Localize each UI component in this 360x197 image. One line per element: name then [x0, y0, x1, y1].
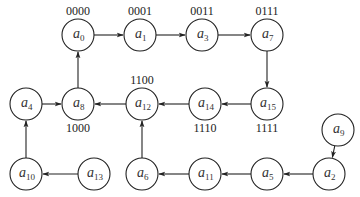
binary-code-label: 1111	[256, 121, 279, 135]
edge-a9-to-a2	[332, 146, 334, 158]
node-a11: a11	[189, 158, 221, 190]
node-a3: a30011	[186, 4, 218, 51]
node-a6: a6	[126, 158, 158, 190]
node-a10: a10	[10, 158, 42, 190]
node-a7: a70111	[251, 4, 283, 51]
node-a14: a141110	[189, 88, 221, 135]
node-a1: a10001	[124, 4, 156, 51]
state-transition-diagram: a00000a10001a30011a70111a151111a141110a1…	[0, 0, 360, 197]
node-a9: a9	[322, 114, 354, 146]
nodes-layer: a00000a10001a30011a70111a151111a141110a1…	[10, 4, 354, 190]
node-a4: a4	[10, 88, 42, 120]
binary-code-label: 1000	[66, 121, 90, 135]
node-a12: a121100	[126, 73, 158, 120]
binary-code-label: 0000	[66, 4, 90, 18]
binary-code-label: 0011	[190, 4, 214, 18]
binary-code-label: 0001	[128, 4, 152, 18]
binary-code-label: 0111	[255, 4, 278, 18]
node-a15: a151111	[251, 88, 283, 135]
binary-code-label: 1110	[193, 121, 216, 135]
node-a8: a81000	[62, 88, 94, 135]
node-a0: a00000	[62, 4, 94, 51]
node-a5: a5	[251, 158, 283, 190]
node-a2: a2	[313, 158, 345, 190]
node-a13: a13	[78, 158, 110, 190]
binary-code-label: 1100	[130, 73, 154, 87]
